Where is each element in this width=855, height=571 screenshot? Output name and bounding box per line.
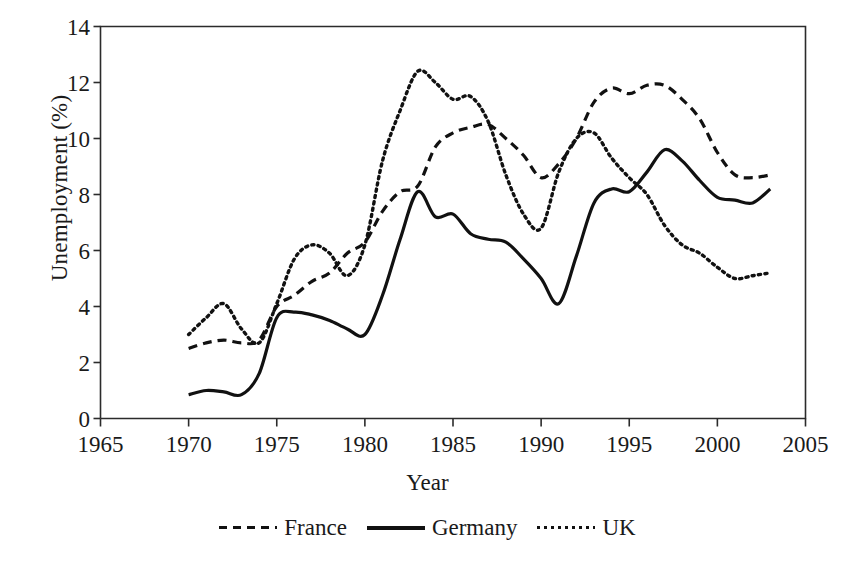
legend-entry-uk[interactable]: UK	[537, 516, 635, 539]
unemployment-line-chart: Unemployment (%) 02468101214 19651970197…	[0, 0, 855, 571]
x-tick-label: 1975	[232, 433, 322, 456]
chart-legend: FranceGermanyUK	[0, 516, 855, 539]
x-tick-label: 2000	[672, 433, 762, 456]
legend-swatch-dashed-icon	[219, 526, 277, 530]
legend-swatch-solid-icon	[367, 526, 425, 530]
x-tick-label: 1985	[408, 433, 498, 456]
x-tick-label: 2005	[761, 433, 851, 456]
legend-entry-france[interactable]: France	[219, 516, 347, 539]
x-tick-label: 1990	[496, 433, 586, 456]
legend-label: UK	[602, 516, 635, 539]
x-tick-label: 1980	[320, 433, 410, 456]
legend-label: France	[284, 516, 347, 539]
x-tick-label: 1965	[56, 433, 146, 456]
x-axis-title: Year	[0, 470, 855, 496]
legend-label: Germany	[432, 516, 518, 539]
x-tick-label: 1995	[584, 433, 674, 456]
legend-entry-germany[interactable]: Germany	[367, 516, 518, 539]
x-tick-label: 1970	[144, 433, 234, 456]
legend-swatch-dotted-icon	[537, 526, 595, 530]
